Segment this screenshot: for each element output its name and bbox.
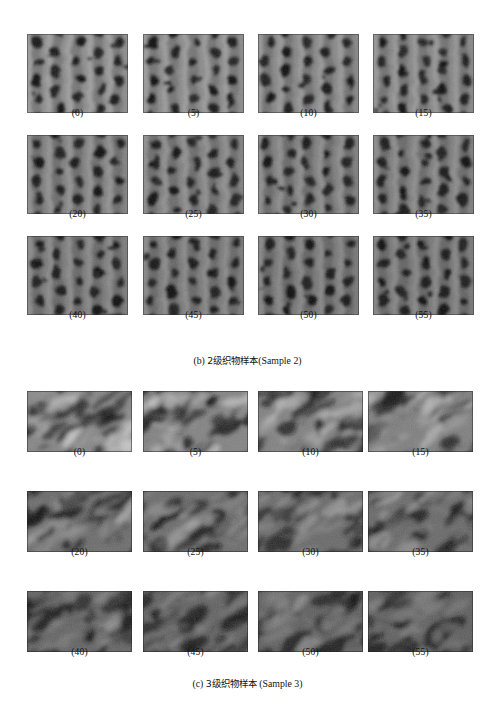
- fabric-sample-tile: (45): [143, 236, 244, 315]
- tile-index-label: (0): [27, 446, 132, 458]
- fabric-sample-tile: (5): [143, 34, 244, 113]
- fabric-sample-tile: (40): [27, 236, 128, 315]
- caption-enumerator: (b): [193, 355, 204, 366]
- fabric-texture-image: [373, 236, 474, 315]
- tile-index-label: (15): [373, 107, 474, 119]
- fabric-sample-tile: (15): [373, 34, 474, 113]
- tile-index-label: (20): [27, 208, 128, 220]
- fabric-texture-image: [368, 491, 473, 552]
- fabric-sample-tile: (45): [143, 591, 248, 652]
- tile-index-label: (30): [258, 208, 359, 220]
- fabric-sample-tile: (40): [27, 591, 132, 652]
- tile-index-label: (50): [258, 646, 363, 658]
- tile-index-label: (10): [258, 107, 359, 119]
- fabric-texture-image: [373, 34, 474, 113]
- fabric-texture-image: [27, 34, 128, 113]
- tile-index-label: (55): [373, 309, 474, 321]
- fabric-sample-tile: (5): [143, 391, 248, 452]
- fabric-texture-image: [258, 236, 359, 315]
- caption-enumerator: (c): [192, 678, 203, 689]
- tile-index-label: (50): [258, 309, 359, 321]
- tile-index-label: (15): [368, 446, 473, 458]
- tile-index-label: (5): [143, 107, 244, 119]
- tile-index-label: (35): [368, 546, 473, 558]
- fabric-sample-tile: (55): [373, 236, 474, 315]
- fabric-texture-image: [143, 591, 248, 652]
- fabric-texture-image: [258, 34, 359, 113]
- tile-index-label: (10): [258, 446, 363, 458]
- caption-chinese-text: 2级织物样本: [207, 355, 258, 366]
- fabric-sample-tile: (55): [368, 591, 473, 652]
- fabric-texture-image: [258, 135, 359, 214]
- fabric-sample-tile: (20): [27, 135, 128, 214]
- fabric-sample-tile: (25): [143, 135, 244, 214]
- image-row: (20)(25)(30)(35): [0, 491, 495, 552]
- tile-index-label: (40): [27, 309, 128, 321]
- fabric-texture-image: [368, 391, 473, 452]
- caption-english-text: (Sample 3): [259, 678, 302, 689]
- fabric-sample-tile: (50): [258, 591, 363, 652]
- fabric-texture-image: [143, 236, 244, 315]
- tile-index-label: (55): [368, 646, 473, 658]
- image-row: (40)(45)(50)(55): [0, 236, 495, 315]
- fabric-sample-tile: (35): [373, 135, 474, 214]
- image-row: (0)(5)(10)(15): [0, 391, 495, 452]
- figure-caption: (c) 3级织物样本 (Sample 3): [0, 677, 495, 690]
- fabric-texture-image: [373, 135, 474, 214]
- tile-index-label: (0): [27, 107, 128, 119]
- figure-plate-page: (0)(5)(10)(15)(20)(25)(30)(35)(40)(45)(5…: [0, 0, 495, 724]
- fabric-sample-tile: (50): [258, 236, 359, 315]
- fabric-sample-tile: (10): [258, 391, 363, 452]
- image-row: (0)(5)(10)(15): [0, 34, 495, 113]
- tile-index-label: (5): [143, 446, 248, 458]
- tile-index-label: (40): [27, 646, 132, 658]
- fabric-texture-image: [143, 34, 244, 113]
- fabric-sample-tile: (20): [27, 491, 132, 552]
- fabric-texture-image: [27, 491, 132, 552]
- image-row: (20)(25)(30)(35): [0, 135, 495, 214]
- fabric-texture-image: [143, 391, 248, 452]
- tile-index-label: (25): [143, 546, 248, 558]
- fabric-texture-image: [258, 391, 363, 452]
- fabric-texture-image: [27, 135, 128, 214]
- fabric-texture-image: [258, 591, 363, 652]
- fabric-sample-tile: (15): [368, 391, 473, 452]
- caption-english-text: (Sample 2): [258, 355, 301, 366]
- fabric-texture-image: [143, 135, 244, 214]
- figure-caption: (b) 2级织物样本(Sample 2): [0, 354, 495, 367]
- image-row: (40)(45)(50)(55): [0, 591, 495, 652]
- tile-index-label: (35): [373, 208, 474, 220]
- tile-index-label: (30): [258, 546, 363, 558]
- tile-index-label: (45): [143, 646, 248, 658]
- fabric-texture-image: [27, 236, 128, 315]
- fabric-texture-image: [27, 591, 132, 652]
- fabric-texture-image: [368, 591, 473, 652]
- fabric-texture-image: [258, 491, 363, 552]
- fabric-sample-tile: (35): [368, 491, 473, 552]
- tile-index-label: (45): [143, 309, 244, 321]
- fabric-sample-tile: (0): [27, 391, 132, 452]
- fabric-sample-tile: (10): [258, 34, 359, 113]
- fabric-texture-image: [143, 491, 248, 552]
- tile-index-label: (20): [27, 546, 132, 558]
- caption-chinese-text: 3级织物样本: [206, 678, 257, 689]
- fabric-sample-tile: (30): [258, 491, 363, 552]
- tile-index-label: (25): [143, 208, 244, 220]
- fabric-texture-image: [27, 391, 132, 452]
- fabric-sample-tile: (25): [143, 491, 248, 552]
- fabric-sample-tile: (30): [258, 135, 359, 214]
- fabric-sample-tile: (0): [27, 34, 128, 113]
